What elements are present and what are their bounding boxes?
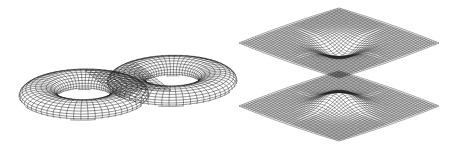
- mesh-line: [102, 116, 103, 119]
- mesh-line: [53, 114, 54, 117]
- mesh-line: [115, 113, 116, 116]
- mesh-line: [145, 70, 197, 84]
- mesh-line: [57, 83, 109, 97]
- mesh-line: [155, 102, 156, 105]
- mesh-line: [158, 106, 184, 107]
- mesh-line: [67, 116, 68, 119]
- mesh-line: [190, 102, 191, 105]
- mesh-line: [60, 115, 61, 118]
- two-sheet-wormhole-mesh: [239, 8, 439, 141]
- mesh-line: [203, 100, 204, 103]
- mesh-line: [197, 101, 198, 104]
- mesh-line: [108, 115, 109, 118]
- mesh-line: [70, 120, 96, 121]
- mesh-line: [148, 102, 149, 105]
- genus-two-surface-mesh: [19, 55, 237, 120]
- figure-canvas: [0, 0, 465, 152]
